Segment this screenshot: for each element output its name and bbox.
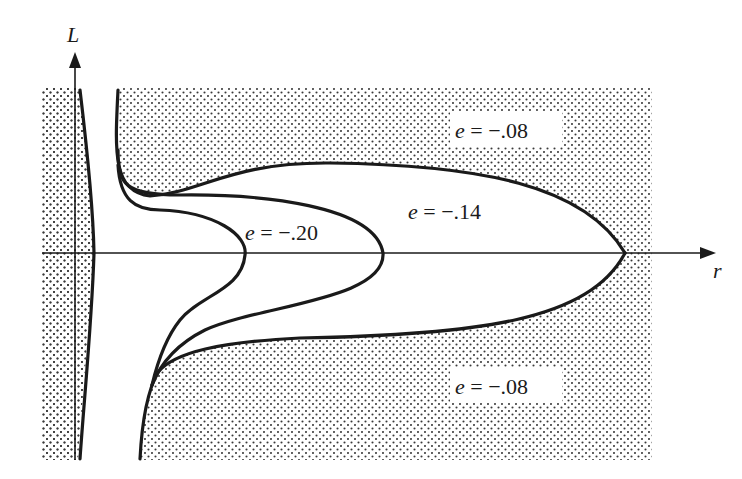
r-axis-label: r — [713, 258, 722, 283]
label-e-020: e = −.20 — [245, 220, 318, 245]
energy-level-diagram: L r e = −.08 e = −.14 e = −.20 e = −.08 — [0, 0, 742, 479]
l-axis-label: L — [66, 22, 79, 47]
label-top-e-008: e = −.08 — [455, 118, 528, 143]
l-axis-arrowhead — [69, 52, 81, 68]
label-bottom-e-008: e = −.08 — [455, 374, 528, 399]
label-e-014: e = −.14 — [408, 199, 481, 224]
